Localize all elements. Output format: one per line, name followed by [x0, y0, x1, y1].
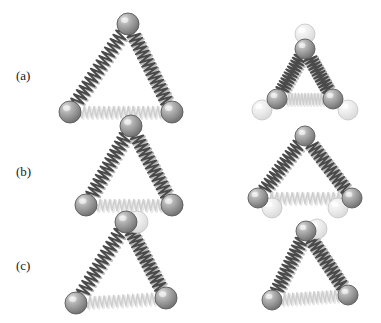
spring — [286, 94, 326, 106]
row-label-c: (c) — [16, 258, 30, 274]
atom-sphere — [338, 285, 358, 305]
row-label-b: (b) — [16, 164, 31, 180]
atom-sphere — [161, 101, 183, 123]
atom-sphere — [262, 290, 282, 310]
atom-sphere — [117, 13, 139, 35]
atom-sphere — [120, 115, 142, 137]
atom-sphere — [59, 101, 81, 123]
atom-sphere — [295, 39, 315, 59]
atom-sphere — [65, 292, 87, 314]
atom-sphere — [75, 194, 97, 216]
atom-sphere — [161, 194, 183, 216]
atom-sphere — [323, 89, 343, 109]
atom-sphere — [115, 211, 137, 233]
atom-sphere — [248, 188, 268, 208]
atom-sphere — [342, 188, 362, 208]
atom-sphere — [155, 287, 177, 309]
row-label-a: (a) — [16, 68, 30, 84]
spring-triangle-figure — [0, 0, 381, 323]
atom-sphere — [267, 89, 287, 109]
atom-sphere — [296, 221, 316, 241]
atom-sphere — [295, 126, 315, 146]
